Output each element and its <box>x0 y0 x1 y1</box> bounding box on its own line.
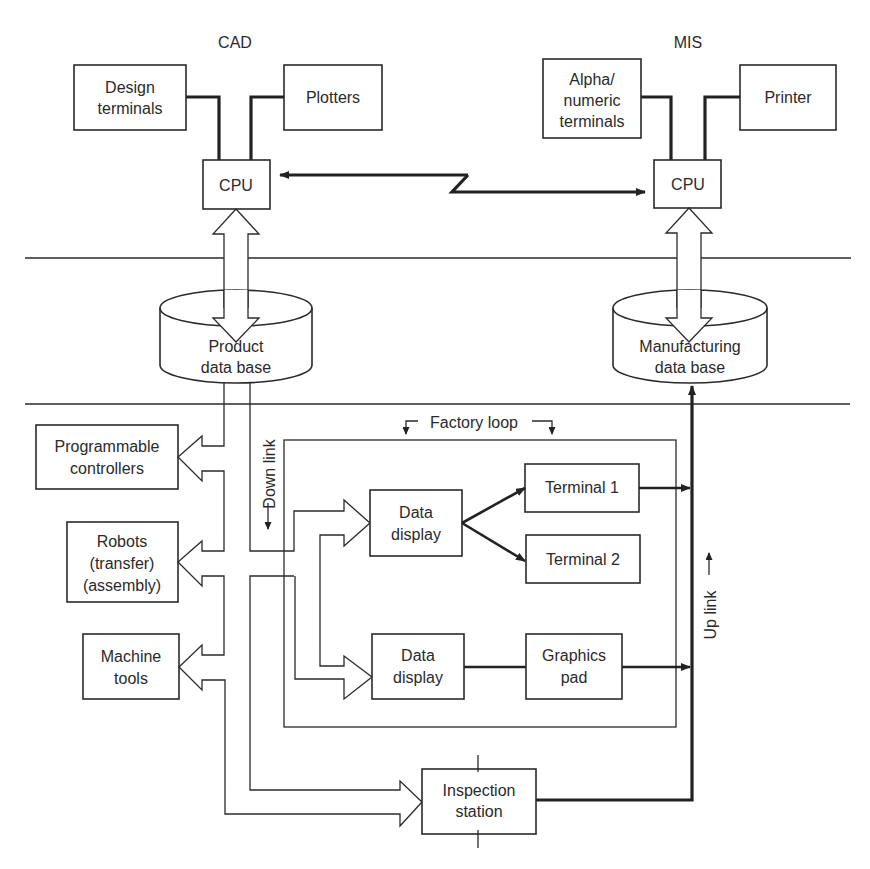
inspection-station-box[interactable]: Inspection station <box>422 755 536 848</box>
alpha-terminals-label-line3: terminals <box>560 113 625 130</box>
data-display-2-label-line2: display <box>393 669 443 686</box>
terminal-2-box[interactable]: Terminal 2 <box>526 535 640 583</box>
product-db-label-line1: Product <box>208 338 264 355</box>
robots-box[interactable]: Robots (transfer) (assembly) <box>67 522 178 602</box>
display-to-terminal-1-arrow <box>462 488 525 523</box>
terminal-2-label: Terminal 2 <box>546 551 620 568</box>
plotters-label: Plotters <box>306 89 360 106</box>
factory-loop-left-arrow <box>406 421 418 434</box>
programmable-controllers-label-line2: controllers <box>70 460 144 477</box>
product-db-distribution-channel <box>178 383 422 826</box>
factory-loop-right-arrow <box>532 421 552 434</box>
design-terminals-box[interactable]: Design terminals <box>74 65 186 130</box>
machine-tools-label-line1: Machine <box>101 648 162 665</box>
product-database[interactable]: Product data base <box>160 290 312 383</box>
terminal-1-box[interactable]: Terminal 1 <box>525 464 639 512</box>
terminal-1-label: Terminal 1 <box>545 479 619 496</box>
cim-diagram: CAD MIS Design terminals Plotters CPU Al… <box>0 0 870 869</box>
graphics-pad-label-line1: Graphics <box>542 647 606 664</box>
down-link-label: Down link <box>261 438 278 508</box>
cad-cpu-label: CPU <box>219 177 253 194</box>
graphics-pad-label-line2: pad <box>561 669 588 686</box>
alpha-terminals-cpu-connector <box>641 97 671 160</box>
display-to-terminal-2-arrow <box>462 523 525 561</box>
data-display-1-label-line2: display <box>391 526 441 543</box>
design-terminals-cpu-connector <box>186 97 219 160</box>
mis-cpu-box[interactable]: CPU <box>654 160 721 208</box>
mis-section-label: MIS <box>674 34 702 51</box>
machine-tools-label-line2: tools <box>114 670 148 687</box>
robots-label-line3: (assembly) <box>83 577 161 594</box>
data-display-2-box[interactable]: Data display <box>372 634 464 699</box>
data-display-1-box[interactable]: Data display <box>370 490 462 556</box>
data-display-2-label-line1: Data <box>401 647 435 664</box>
factory-loop-label: Factory loop <box>430 414 518 431</box>
inspection-station-label-line1: Inspection <box>443 782 516 799</box>
alpha-terminals-label-line1: Alpha/ <box>569 71 615 88</box>
graphics-pad-box[interactable]: Graphics pad <box>526 634 622 699</box>
manufacturing-db-label-line1: Manufacturing <box>639 338 740 355</box>
mis-cpu-label: CPU <box>671 176 705 193</box>
machine-tools-box[interactable]: Machine tools <box>83 634 179 699</box>
printer-box[interactable]: Printer <box>740 65 836 130</box>
robots-label-line1: Robots <box>97 533 148 550</box>
manufacturing-database[interactable]: Manufacturing data base <box>613 290 767 383</box>
data-display-1-label-line1: Data <box>399 504 433 521</box>
design-terminals-label-line2: terminals <box>98 100 163 117</box>
design-terminals-label-line1: Design <box>105 79 155 96</box>
plotters-cpu-connector <box>251 97 284 160</box>
alpha-terminals-label-line2: numeric <box>564 92 621 109</box>
up-link-label: Up link <box>702 590 719 640</box>
programmable-controllers-box[interactable]: Programmable controllers <box>36 425 178 489</box>
robots-label-line2: (transfer) <box>90 555 155 572</box>
printer-cpu-connector <box>705 97 740 160</box>
plotters-box[interactable]: Plotters <box>284 65 382 130</box>
inspection-station-label-line2: station <box>455 803 502 820</box>
printer-label: Printer <box>764 89 812 106</box>
manufacturing-db-label-line2: data base <box>655 359 725 376</box>
programmable-controllers-label-line1: Programmable <box>55 438 160 455</box>
alpha-numeric-terminals-box[interactable]: Alpha/ numeric terminals <box>543 59 641 138</box>
cad-cpu-box[interactable]: CPU <box>203 160 270 209</box>
down-link-channel <box>250 383 372 699</box>
up-link-bus <box>536 386 692 800</box>
cpu-link-to-mis-arrow <box>452 175 645 192</box>
cad-section-label: CAD <box>218 34 252 51</box>
product-db-label-line2: data base <box>201 359 271 376</box>
